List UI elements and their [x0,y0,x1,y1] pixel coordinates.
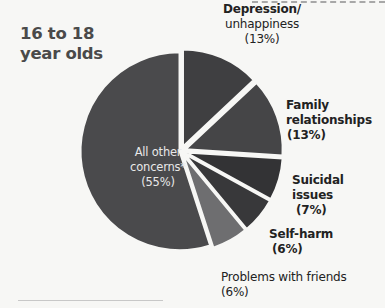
label-line: Self-harm [269,227,333,242]
label-pct: (6%) [272,242,333,257]
slice-label-family: Family relationships (13%) [286,98,372,143]
label-pct: (13%) [212,32,312,47]
label-pct: (7%) [296,203,344,218]
slice-label-other: All other concerns* (55%) [103,145,213,190]
label-pct: (6%) [221,285,347,300]
label-line: concerns* [103,160,213,175]
label-line: unhappiness [212,17,312,32]
slice-label-depression: Depression/ unhappiness (13%) [212,2,312,47]
label-line: Depression/ [212,2,312,17]
label-line: issues [292,188,344,203]
slice-label-selfharm: Self-harm (6%) [269,227,333,257]
slice-label-suicidal: Suicidal issues (7%) [292,173,344,218]
label-line: Problems with friends [221,270,347,285]
label-line: Family [286,98,372,113]
label-line: Suicidal [292,173,344,188]
label-pct: (55%) [103,175,213,190]
label-line: All other [103,145,213,160]
label-pct: (13%) [287,128,372,143]
label-line: relationships [286,113,372,128]
slice-label-friends: Problems with friends (6%) [221,270,347,300]
